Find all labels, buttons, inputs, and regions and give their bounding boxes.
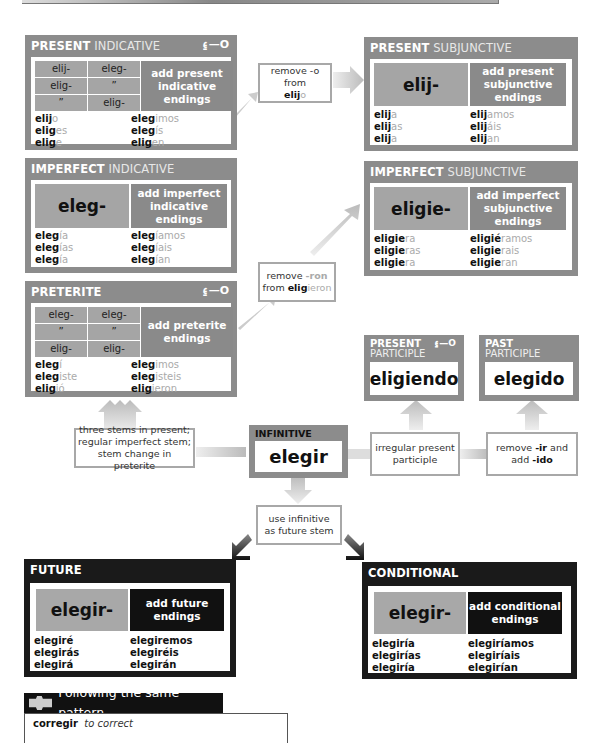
infinitive-panel: INFINITIVE elegir <box>249 425 348 478</box>
note-irregular-participle: irregular presentparticiple <box>370 432 460 476</box>
forms-right: eligiéramos eligierais eligieran <box>470 233 532 269</box>
note-future-stem: use infinitiveas future stem <box>256 505 342 545</box>
endings-label: add imperfect indicative endings <box>131 184 227 228</box>
panel-title: INFINITIVE <box>249 425 348 439</box>
key-icon: ⍷—O <box>202 38 229 51</box>
endings-label: add present subjunctive endings <box>470 63 566 106</box>
stem-grid: eleg- eleg- ” ” elig- elig- <box>35 307 140 357</box>
forms-right: elegimos elegisteis eligieron <box>131 359 181 395</box>
infinitive-value: elegir <box>255 441 342 472</box>
stem-cell: eleg- <box>35 307 87 323</box>
panel-title: PASTPARTICIPLE <box>479 335 579 359</box>
stem-box: eleg- <box>35 184 129 228</box>
forms-left: elegiríaelegiríaselegiría <box>372 638 421 674</box>
forms-left: elija elijas elija <box>374 109 402 145</box>
stem-box: elij- <box>374 63 468 106</box>
key-icon: ⍷—O <box>434 338 456 349</box>
endings-label: add preterite endings <box>141 307 233 357</box>
panel-title: FUTURE <box>24 559 236 580</box>
stem-cell: elij- <box>35 61 87 77</box>
panel-title: IMPERFECT SUBJUNCTIVE <box>364 161 578 182</box>
note-remove-o: remove -o fromelijo <box>258 63 332 103</box>
participle-value: eligiendo <box>370 362 458 395</box>
present-indicative-panel: PRESENT INDICATIVE ⍷—O elij- eleg- elig-… <box>25 35 237 150</box>
stem-cell: elig- <box>88 95 140 111</box>
participle-value: elegido <box>485 362 573 395</box>
past-participle-panel: PASTPARTICIPLE elegido <box>479 335 579 401</box>
endings-label: add conditional endings <box>468 592 562 634</box>
conditional-panel: CONDITIONAL elegir- add conditional endi… <box>362 562 577 679</box>
stem-cell: eleg- <box>88 307 140 323</box>
stem-box: elegir- <box>374 592 466 634</box>
stem-cell: elig- <box>88 341 140 357</box>
pattern-heading: Following the same pattern <box>24 693 223 713</box>
future-panel: FUTURE elegir- add future endings elegir… <box>24 559 236 677</box>
forms-right: elegíamos elegíais elegían <box>131 230 185 266</box>
stem-box: eligie- <box>374 187 468 230</box>
note-three-stems: three stems in present;regular imperfect… <box>74 428 195 468</box>
endings-label: add present indicative endings <box>141 61 233 111</box>
stem-cell: ” <box>35 324 87 340</box>
forms-left: elegiréelegiráselegirá <box>34 635 79 671</box>
forms-left: elegí elegiste eligió <box>35 359 77 395</box>
forms-right: elijamos elijáis elijan <box>470 109 514 145</box>
forms-left: elegía elegías elegía <box>35 230 73 266</box>
stem-grid: elij- eleg- elig- ” ” elig- <box>35 61 140 111</box>
imperfect-subjunctive-panel: IMPERFECT SUBJUNCTIVE eligie- add imperf… <box>364 161 578 276</box>
stem-cell: elig- <box>35 341 87 357</box>
stem-cell: ” <box>88 78 140 94</box>
endings-label: add future endings <box>130 589 224 631</box>
stem-cell: eleg- <box>88 61 140 77</box>
stem-box: elegir- <box>36 589 128 631</box>
forms-right: elegimos elegís eligen <box>131 113 179 149</box>
note-remove-ir: remove -ir andadd -ido <box>486 432 578 476</box>
note-remove-ron: remove -ronfrom eligieron <box>258 262 336 302</box>
stem-cell: elig- <box>35 78 87 94</box>
stem-cell: ” <box>88 324 140 340</box>
preterite-panel: PRETERITE ⍷—O eleg- eleg- ” ” elig- elig… <box>25 281 237 397</box>
puzzle-icon <box>29 696 52 710</box>
panel-title: IMPERFECT INDICATIVE <box>25 158 237 179</box>
present-subjunctive-panel: PRESENT SUBJUNCTIVE elij- add present su… <box>364 37 578 151</box>
forms-left: eligiera eligieras eligiera <box>374 233 420 269</box>
pattern-example: corregir to correct <box>24 713 288 743</box>
forms-right: elegiríamoselegiríaiselegirían <box>468 638 534 674</box>
forms-left: elijo eliges elige <box>35 113 67 149</box>
key-icon: ⍷—O <box>202 284 229 297</box>
present-participle-panel: PRESENTPARTICIPLE ⍷—O eligiendo <box>364 335 464 401</box>
stem-cell: ” <box>35 95 87 111</box>
panel-title: CONDITIONAL <box>362 562 577 583</box>
panel-title: PRESENT SUBJUNCTIVE <box>364 37 578 58</box>
forms-right: elegiremoselegiréiselegirán <box>130 635 193 671</box>
endings-label: add imperfect subjunctive endings <box>470 187 566 230</box>
imperfect-indicative-panel: IMPERFECT INDICATIVE eleg- add imperfect… <box>25 158 237 273</box>
